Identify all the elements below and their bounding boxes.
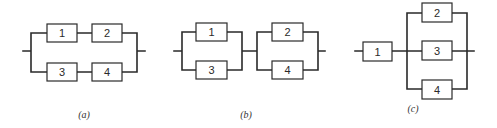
block-label: 1 (59, 27, 65, 39)
block-a-3: 3 (47, 63, 77, 81)
block-label: 4 (434, 84, 440, 96)
block-label: 3 (59, 66, 65, 78)
block-a-4: 4 (92, 63, 122, 81)
block-label: 2 (104, 27, 110, 39)
block-c-1: 1 (363, 42, 392, 61)
block-label: 3 (208, 64, 214, 76)
block-label: 1 (374, 46, 380, 58)
block-b-1: 1 (196, 23, 227, 41)
caption-b: (b) (240, 109, 252, 121)
diagram-b: 1 3 2 4 (b) (174, 23, 325, 121)
block-label: 4 (284, 64, 290, 76)
caption-c: (c) (407, 103, 419, 115)
block-b-3: 3 (196, 61, 227, 79)
reliability-diagrams: 1 2 3 4 (a) 1 3 2 4 (0, 0, 497, 128)
diagram-c: 1 2 3 4 (c) (355, 3, 474, 115)
block-label: 2 (284, 26, 290, 38)
diagram-a-wires (23, 33, 145, 72)
caption-a: (a) (78, 109, 90, 121)
block-c-2: 2 (422, 3, 452, 22)
block-c-4: 4 (422, 80, 452, 99)
block-label: 2 (434, 7, 440, 19)
diagram-a: 1 2 3 4 (a) (23, 24, 145, 121)
block-b-2: 2 (272, 23, 303, 41)
block-label: 3 (434, 45, 440, 57)
block-a-1: 1 (47, 24, 77, 42)
block-a-2: 2 (92, 24, 122, 42)
block-b-4: 4 (272, 61, 303, 79)
block-label: 4 (104, 66, 110, 78)
block-c-3: 3 (422, 41, 452, 60)
block-label: 1 (208, 26, 214, 38)
